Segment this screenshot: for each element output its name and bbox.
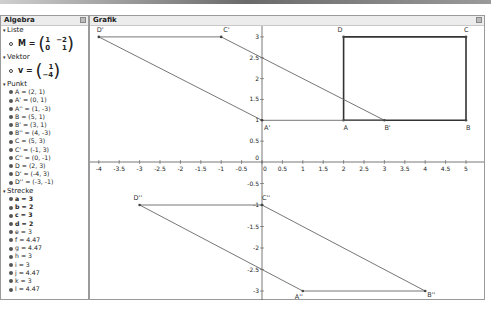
visible-object-icon[interactable] xyxy=(9,288,13,292)
point[interactable] xyxy=(424,290,427,293)
x-tick-label: -3 xyxy=(137,165,143,172)
y-tick-label: 0.5 xyxy=(249,137,259,144)
graphics-header: Grafik xyxy=(90,16,484,26)
point-label: D xyxy=(338,26,343,34)
list-item-point[interactable]: D = (2, 3) xyxy=(3,162,88,170)
list-item-point[interactable]: B' = (3, 1) xyxy=(3,121,88,129)
visible-object-icon[interactable] xyxy=(9,238,13,242)
category-punkt[interactable]: Punkt xyxy=(3,80,88,89)
polygon-0[interactable] xyxy=(344,37,466,120)
visible-object-icon[interactable] xyxy=(9,156,13,160)
point-label: D' xyxy=(97,26,104,34)
x-tick-label: 2.5 xyxy=(359,165,369,172)
list-item-point[interactable]: B = (5, 1) xyxy=(3,113,88,121)
list-item-point[interactable]: C = (5, 3) xyxy=(3,137,88,145)
list-item-segment[interactable]: l = 4.47 xyxy=(3,285,88,293)
category-strecke[interactable]: Strecke xyxy=(3,187,88,196)
hidden-object-icon[interactable] xyxy=(9,69,13,73)
list-item-point[interactable]: C' = (-1, 3) xyxy=(3,146,88,154)
y-tick-label: 3 xyxy=(255,33,259,40)
point[interactable] xyxy=(261,119,264,122)
x-tick-label: 3 xyxy=(382,165,386,172)
x-tick-label: -4 xyxy=(96,165,102,172)
list-item-point[interactable]: A'' = (1, -3) xyxy=(3,105,88,113)
point[interactable] xyxy=(465,36,468,39)
list-item-point[interactable]: A = (2, 1) xyxy=(3,88,88,96)
visible-object-icon[interactable] xyxy=(9,279,13,283)
visible-object-icon[interactable] xyxy=(9,115,13,119)
x-tick-label: -1 xyxy=(218,165,224,172)
list-item-segment[interactable]: h = 3 xyxy=(3,252,88,260)
close-algebra-icon[interactable] xyxy=(80,17,86,23)
list-item-segment[interactable]: f = 4.47 xyxy=(3,236,88,244)
visible-object-icon[interactable] xyxy=(9,181,13,185)
point[interactable] xyxy=(98,36,101,39)
close-graphics-icon[interactable] xyxy=(476,17,482,23)
point-label: A' xyxy=(264,124,270,132)
x-tick-label: -0.5 xyxy=(236,165,248,172)
list-item-point[interactable]: D' = (-4, 3) xyxy=(3,170,88,178)
graphics-view[interactable]: Grafik -4-3.5-3-2.5-2-1.5-1-0.500.511.52… xyxy=(89,15,485,300)
point-label: B'' xyxy=(427,291,435,299)
visible-object-icon[interactable] xyxy=(9,164,13,168)
point-label: B' xyxy=(384,124,390,132)
point[interactable] xyxy=(138,204,141,207)
y-tick-label: -2.5 xyxy=(247,266,259,273)
list-item-point[interactable]: D'' = (-3, -1) xyxy=(3,178,88,186)
visible-object-icon[interactable] xyxy=(9,247,13,251)
visible-object-icon[interactable] xyxy=(9,197,13,201)
point[interactable] xyxy=(261,204,264,207)
category-liste[interactable]: Liste xyxy=(3,26,88,35)
list-item-segment[interactable]: i = 3 xyxy=(3,261,88,269)
y-tick-label: -1 xyxy=(253,201,259,208)
point[interactable] xyxy=(220,36,223,39)
visible-object-icon[interactable] xyxy=(9,206,13,210)
list-item-point[interactable]: A' = (0, 1) xyxy=(3,96,88,104)
polygon-1[interactable] xyxy=(99,37,385,120)
hidden-object-icon[interactable] xyxy=(9,42,13,46)
visible-object-icon[interactable] xyxy=(9,222,13,226)
point[interactable] xyxy=(302,290,305,293)
visible-object-icon[interactable] xyxy=(9,255,13,259)
visible-object-icon[interactable] xyxy=(9,230,13,234)
visible-object-icon[interactable] xyxy=(9,90,13,94)
point-label: C xyxy=(464,26,469,34)
algebra-view: Algebra Liste M = ( 1 −2 0 1 ) Vektor v xyxy=(0,15,89,300)
category-vektor[interactable]: Vektor xyxy=(3,53,88,62)
list-item-segment[interactable]: j = 4.47 xyxy=(3,269,88,277)
visible-object-icon[interactable] xyxy=(9,172,13,176)
point-label: C'' xyxy=(262,194,270,202)
list-item-matrix[interactable]: M = ( 1 −2 0 1 ) xyxy=(3,35,88,53)
visible-object-icon[interactable] xyxy=(9,214,13,218)
visible-object-icon[interactable] xyxy=(9,271,13,275)
visible-object-icon[interactable] xyxy=(9,131,13,135)
visible-object-icon[interactable] xyxy=(9,148,13,152)
list-item-segment[interactable]: b = 2 xyxy=(3,203,88,211)
point-label: B xyxy=(466,124,470,132)
point-label: C' xyxy=(223,26,230,34)
point[interactable] xyxy=(383,119,386,122)
list-item-segment[interactable]: k = 3 xyxy=(3,277,88,285)
list-item-point[interactable]: C'' = (0, -1) xyxy=(3,154,88,162)
list-item-segment[interactable]: a = 3 xyxy=(3,195,88,203)
polygon-2[interactable] xyxy=(140,205,426,291)
list-item-segment[interactable]: c = 3 xyxy=(3,211,88,219)
coordinate-plane[interactable]: -4-3.5-3-2.5-2-1.5-1-0.500.511.522.533.5… xyxy=(90,26,484,300)
visible-object-icon[interactable] xyxy=(9,123,13,127)
visible-object-icon[interactable] xyxy=(9,140,13,144)
x-tick-label: -2.5 xyxy=(154,165,166,172)
visible-object-icon[interactable] xyxy=(9,263,13,267)
list-item-segment[interactable]: g = 4.47 xyxy=(3,244,88,252)
y-tick-label: 2.5 xyxy=(249,54,259,61)
y-tick-label: -2 xyxy=(253,244,259,251)
list-item-segment[interactable]: d = 2 xyxy=(3,220,88,228)
y-tick-label: -1.5 xyxy=(247,223,259,230)
list-item-point[interactable]: B'' = (4, -3) xyxy=(3,129,88,137)
x-tick-label: 1 xyxy=(301,165,305,172)
visible-object-icon[interactable] xyxy=(9,99,13,103)
list-item-vector[interactable]: v = ( 1 −4 ) xyxy=(3,61,88,79)
list-item-segment[interactable]: e = 3 xyxy=(3,228,88,236)
point[interactable] xyxy=(465,119,468,122)
point[interactable] xyxy=(342,36,345,39)
visible-object-icon[interactable] xyxy=(9,107,13,111)
